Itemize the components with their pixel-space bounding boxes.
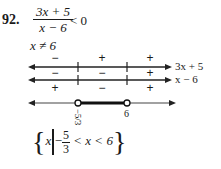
set-variable: x xyxy=(45,133,51,148)
sign-3x5-interval-1: − xyxy=(49,51,61,65)
solution-set: {x−53 < x < 6} xyxy=(32,128,126,156)
quotient-sign-interval-3: + xyxy=(144,81,156,95)
quotient-sign-interval-2: − xyxy=(96,81,108,95)
open-brace: { xyxy=(32,126,45,157)
close-brace: } xyxy=(113,126,126,157)
critical-point-label-6: 6 xyxy=(124,108,129,119)
sign-3x5-interval-3: + xyxy=(144,51,156,65)
sign-3x5-interval-2: + xyxy=(96,51,108,65)
critical-point-label-neg-5-3: −5/3 xyxy=(73,109,83,126)
minus-sign: − xyxy=(55,133,62,148)
sign-x6-interval-3: + xyxy=(144,66,156,80)
quotient-sign-interval-1: + xyxy=(49,81,61,95)
fraction-denominator: 3 xyxy=(62,143,70,156)
such-that-bar xyxy=(52,129,54,155)
fraction-5-3: 53 xyxy=(62,129,70,156)
fraction-numerator: 5 xyxy=(62,129,70,143)
interval-condition: < x < 6 xyxy=(70,133,113,148)
factor-label-3x5: 3x + 5 xyxy=(175,60,203,72)
sign-x6-interval-2: − xyxy=(96,66,108,80)
factor-label-x6: x − 6 xyxy=(175,73,198,85)
sign-x6-interval-1: − xyxy=(49,66,61,80)
